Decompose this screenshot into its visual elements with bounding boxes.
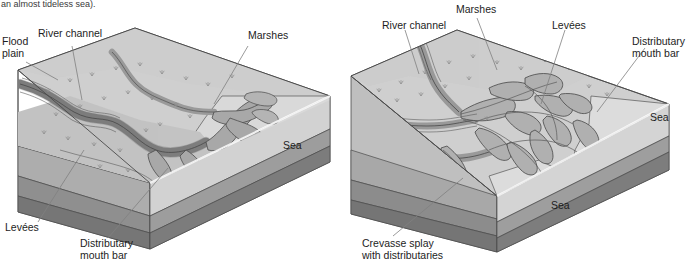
label-levees-left: Levées [5, 222, 39, 234]
label-levees-right: Levées [552, 20, 586, 32]
label-distributary-mouth-bar-right: Distributary mouth bar [632, 36, 698, 60]
label-distributary-mouth-bar-left: Distributary mouth bar [80, 238, 156, 262]
label-river-channel-left: River channel [38, 28, 102, 40]
label-sea-right: Sea [650, 112, 669, 124]
label-river-channel-right: River channel [382, 20, 446, 32]
figure-root: an almost tideless sea). [0, 0, 699, 273]
label-crevasse-splay: Crevasse splay with distributaries [362, 238, 482, 262]
label-sea-lower-right: Sea [551, 200, 570, 212]
label-marshes-left: Marshes [248, 30, 288, 42]
label-sea-left: Sea [283, 140, 302, 152]
label-marshes-right: Marshes [456, 4, 496, 16]
left-block-diagram [0, 0, 360, 273]
